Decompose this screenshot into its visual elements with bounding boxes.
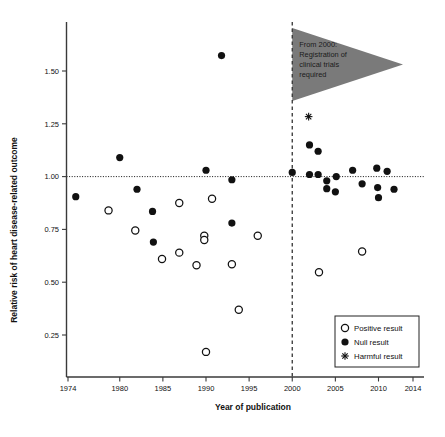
data-point [235, 306, 242, 313]
annotation-line: From 2000: [299, 40, 337, 49]
data-point [228, 176, 235, 183]
data-point [315, 148, 322, 155]
x-tick-label: 2000 [284, 384, 301, 393]
annotation-line: clinical trials [299, 60, 339, 69]
x-tick-label: 1995 [241, 384, 258, 393]
x-tick-label: 1990 [198, 384, 215, 393]
data-point [228, 219, 235, 226]
data-point [208, 195, 215, 202]
legend-label: Null result [354, 338, 389, 347]
legend-label: Harmful result [354, 352, 403, 361]
x-tick-label: 1985 [155, 384, 172, 393]
data-point [72, 193, 79, 200]
y-tick-label: 0.75 [44, 225, 59, 234]
y-tick-label: 1.50 [44, 67, 59, 76]
data-point [390, 186, 397, 193]
data-point [374, 184, 381, 191]
data-point [359, 248, 366, 255]
data-point [201, 236, 208, 243]
data-point [375, 194, 382, 201]
legend-marker-open-circle [341, 324, 348, 331]
data-point [218, 52, 225, 59]
data-point [133, 186, 140, 193]
data-point [306, 171, 313, 178]
data-point [306, 141, 313, 148]
data-point [132, 227, 139, 234]
data-point [323, 185, 330, 192]
y-tick-label: 0.25 [44, 331, 59, 340]
chart-svg: From 2000:Registration ofclinical trials… [0, 0, 445, 437]
data-point [305, 113, 313, 121]
data-point [254, 232, 261, 239]
legend: Positive resultNull resultHarmful result [335, 316, 419, 367]
annotation-line: required [299, 70, 326, 79]
y-tick-label: 0.50 [44, 278, 59, 287]
data-point [176, 199, 183, 206]
x-tick-label: 1980 [111, 384, 128, 393]
data-point [323, 177, 330, 184]
x-tick-label: 2005 [327, 384, 344, 393]
data-point [105, 207, 112, 214]
data-point [315, 269, 322, 276]
y-tick-label: 1.00 [44, 172, 59, 181]
data-point [349, 167, 356, 174]
data-point [228, 261, 235, 268]
data-point [332, 188, 339, 195]
x-tick-label: 1974 [60, 384, 77, 393]
data-point [359, 180, 366, 187]
y-axis-title: Relative risk of heart disease-related o… [9, 137, 19, 323]
data-point [158, 255, 165, 262]
y-tick-label: 1.25 [44, 120, 59, 129]
series-harmful-result [305, 113, 313, 121]
scatter-chart: From 2000:Registration ofclinical trials… [0, 0, 445, 437]
data-point [333, 173, 340, 180]
x-tick-label: 2014 [405, 384, 422, 393]
legend-marker-filled-circle [341, 338, 348, 345]
data-point [150, 238, 157, 245]
data-point [193, 262, 200, 269]
data-point [116, 154, 123, 161]
data-point [202, 348, 209, 355]
data-point [176, 249, 183, 256]
data-point [384, 168, 391, 175]
legend-marker-asterisk [341, 352, 349, 360]
data-point [202, 167, 209, 174]
x-axis-title: Year of publication [215, 402, 291, 412]
data-point [149, 208, 156, 215]
data-point [373, 165, 380, 172]
data-point [315, 171, 322, 178]
annotation-line: Registration of [299, 50, 348, 59]
data-point [289, 169, 296, 176]
x-tick-label: 2010 [370, 384, 387, 393]
legend-label: Positive result [354, 324, 403, 333]
